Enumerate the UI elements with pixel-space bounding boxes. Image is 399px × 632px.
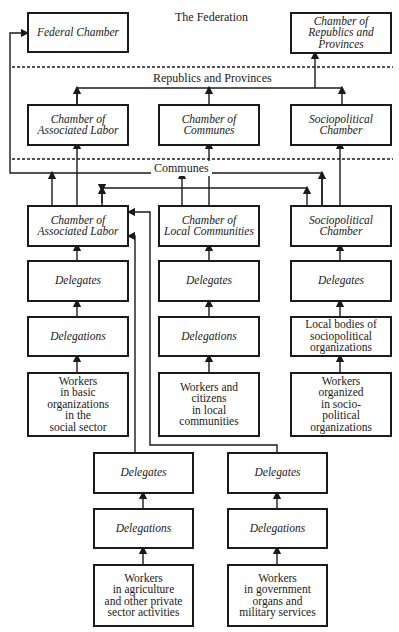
right-delegates-label: Delegates — [318, 275, 364, 287]
commune-local-communities-label: Chamber of Local Communities — [164, 215, 254, 238]
left-delegates-label: Delegates — [55, 275, 101, 287]
chamber-of-republics-label: Chamber of Republics and Provinces — [308, 16, 373, 51]
republic-communes-label: Chamber of Communes — [182, 114, 237, 137]
right-local-bodies-label: Local bodies of sociopolitical organizat… — [305, 319, 377, 354]
republic-associated-labor-box: Chamber of Associated Labor — [27, 104, 129, 146]
left-workers-label: Workers in basic organizations in the so… — [47, 376, 109, 434]
federal-assembly-diagram: The Federation Republics and Provinces C… — [0, 0, 399, 632]
right-workers-box: Workers organized in socio- political or… — [290, 372, 392, 437]
left-delegations-box: Delegations — [27, 316, 129, 357]
bottom-right-delegates-box: Delegates — [227, 452, 328, 494]
bottom-left-delegations-box: Delegations — [93, 508, 194, 549]
middle-workers-box: Workers and citizens in local communitie… — [158, 372, 260, 437]
federal-chamber-label: Federal Chamber — [37, 27, 119, 39]
commune-sociopolitical-label: Sociopolitical Chamber — [309, 215, 373, 238]
middle-delegations-label: Delegations — [181, 331, 237, 343]
republic-associated-labor-label: Chamber of Associated Labor — [38, 114, 119, 137]
republic-sociopolitical-label: Sociopolitical Chamber — [309, 114, 373, 137]
chamber-of-republics-box: Chamber of Republics and Provinces — [290, 12, 392, 54]
left-delegations-label: Delegations — [50, 331, 106, 343]
bottom-left-delegations-label: Delegations — [116, 523, 172, 535]
bottom-right-delegations-box: Delegations — [227, 508, 328, 549]
bottom-right-workers-box: Workers in government organs and militar… — [227, 564, 328, 627]
commune-associated-labor-label: Chamber of Associated Labor — [38, 215, 119, 238]
bottom-right-delegations-label: Delegations — [250, 523, 306, 535]
right-delegates-box: Delegates — [290, 260, 392, 302]
bottom-left-delegates-label: Delegates — [121, 467, 167, 479]
left-workers-box: Workers in basic organizations in the so… — [27, 372, 129, 437]
bottom-right-workers-label: Workers in government organs and militar… — [239, 573, 315, 619]
republic-sociopolitical-box: Sociopolitical Chamber — [290, 104, 392, 146]
commune-associated-labor-box: Chamber of Associated Labor — [27, 205, 129, 247]
level-label-communes: Communes — [151, 161, 212, 176]
middle-delegates-label: Delegates — [186, 275, 232, 287]
right-local-bodies-box: Local bodies of sociopolitical organizat… — [290, 316, 392, 357]
level-label-republics: Republics and Provinces — [150, 71, 275, 86]
commune-sociopolitical-box: Sociopolitical Chamber — [290, 205, 392, 247]
bottom-left-delegates-box: Delegates — [93, 452, 194, 494]
level-label-federation: The Federation — [172, 10, 251, 25]
middle-workers-label: Workers and citizens in local communitie… — [179, 382, 238, 428]
middle-delegates-box: Delegates — [158, 260, 260, 302]
republic-communes-box: Chamber of Communes — [158, 104, 260, 146]
bottom-left-workers-box: Workers in agriculture and other private… — [93, 564, 194, 627]
commune-local-communities-box: Chamber of Local Communities — [158, 205, 260, 247]
right-workers-label: Workers organized in socio- political or… — [310, 376, 372, 434]
bottom-left-workers-label: Workers in agriculture and other private… — [105, 573, 183, 619]
bottom-right-delegates-label: Delegates — [255, 467, 301, 479]
middle-delegations-box: Delegations — [158, 316, 260, 357]
federal-chamber-box: Federal Chamber — [27, 12, 129, 53]
left-delegates-box: Delegates — [27, 260, 129, 302]
